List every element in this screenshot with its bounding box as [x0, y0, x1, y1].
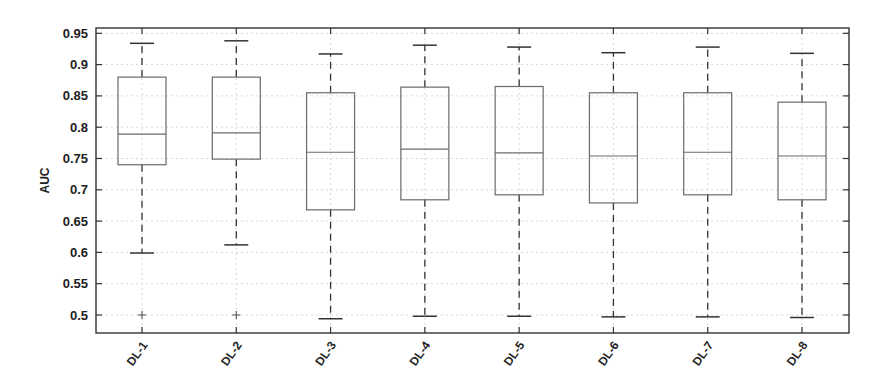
box-dl-3 — [307, 93, 355, 210]
x-tick-label: DL-6 — [595, 338, 622, 368]
x-tick-label: DL-4 — [407, 338, 434, 368]
chart-canvas: 0.50.550.60.650.70.750.80.850.90.95AUCDL… — [0, 0, 889, 389]
y-tick-label: 0.95 — [63, 26, 88, 41]
y-tick-label: 0.8 — [70, 120, 88, 135]
y-tick-label: 0.6 — [70, 245, 88, 260]
y-tick-label: 0.5 — [70, 308, 88, 323]
y-tick-label: 0.9 — [70, 57, 88, 72]
y-tick-label: 0.75 — [63, 151, 88, 166]
auc-boxplot-chart: AUC 0.50.550.60.650.70.750.80.850.90.95A… — [0, 0, 889, 389]
box-dl-8 — [778, 102, 826, 200]
x-tick-label: DL-5 — [501, 338, 528, 368]
plot-frame — [96, 28, 849, 333]
x-tick-label: DL-1 — [124, 338, 151, 368]
y-axis-title: AUC — [38, 167, 52, 193]
x-tick-label: DL-2 — [218, 338, 245, 368]
x-tick-label: DL-8 — [784, 338, 811, 368]
x-tick-label: DL-3 — [312, 338, 339, 368]
x-tick-label: DL-7 — [689, 338, 716, 368]
y-tick-label: 0.65 — [63, 214, 88, 229]
y-tick-label: 0.85 — [63, 88, 88, 103]
y-tick-label: 0.55 — [63, 276, 88, 291]
y-tick-label: 0.7 — [70, 182, 88, 197]
box-dl-1 — [118, 77, 166, 165]
